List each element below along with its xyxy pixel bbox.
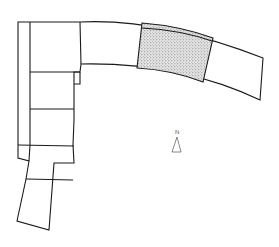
west-wing-divider	[29, 22, 30, 161]
north-room-east-wall	[80, 22, 81, 64]
room-divider-3	[18, 145, 74, 146]
room-divider-4	[26, 179, 73, 180]
north-arrow-label: N	[175, 129, 179, 135]
west-wing-step	[74, 72, 80, 84]
north-arrow-icon	[172, 137, 181, 152]
site-plan-diagram: N	[0, 0, 279, 247]
